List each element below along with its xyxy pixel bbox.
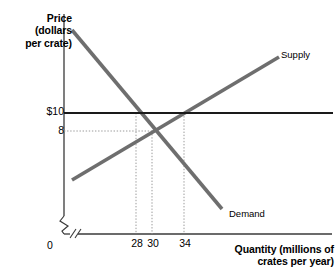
- y-tick-label-8: 8: [20, 124, 64, 136]
- y-axis-title-line-1: Price: [47, 12, 72, 24]
- x-axis-title-line-1: Quantity (millions of: [235, 243, 334, 255]
- origin-label: 0: [42, 239, 58, 251]
- demand-curve-label: Demand: [229, 208, 265, 219]
- supply-curve-label: Supply: [281, 49, 310, 60]
- supply-demand-chart: Price(dollarsper crate) Quantity (millio…: [0, 0, 336, 278]
- x-axis-title: Quantity (millions ofcrates per year): [196, 243, 334, 268]
- y-axis-title: Price(dollarsper crate): [0, 12, 72, 49]
- x-axis-title-line-2: crates per year): [257, 255, 334, 267]
- y-axis-title-line-2: (dollars: [35, 24, 72, 36]
- y-axis-title-line-3: per crate): [25, 37, 72, 49]
- y-tick-label-10: $10: [20, 105, 64, 117]
- x-tick-label-34: 34: [174, 237, 196, 249]
- x-tick-label-30: 30: [142, 237, 164, 249]
